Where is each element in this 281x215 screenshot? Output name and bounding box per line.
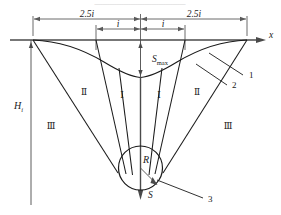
s-axis-label: S [148, 190, 153, 200]
radius-label: R [142, 154, 149, 165]
cropped-caption-text: ————————————— [94, 0, 187, 8]
zone-label-middle-right: Ⅱ [194, 87, 200, 97]
zone-label-inner-right: Ⅰ [157, 90, 161, 100]
s-max-subscript: max [157, 59, 169, 66]
zone-label-outer-right: Ⅲ [224, 121, 233, 131]
callout-label-1: 1 [249, 70, 254, 80]
dimension-label-right-outer: 2.5i [187, 9, 202, 19]
cropped-caption: ————————————— [94, 0, 187, 8]
x-axis-label: x [268, 30, 274, 40]
zone-label-inner-left: Ⅰ [120, 90, 124, 100]
zone-label-outer-left: Ⅲ [47, 121, 56, 131]
callout-label-3: 3 [208, 194, 213, 204]
callout-label-2: 2 [232, 80, 237, 90]
dimension-label-left-outer: 2.5i [80, 9, 95, 19]
depth-subscript: i [21, 106, 23, 113]
subsidence-diagram-figure: ————————————— [0, 0, 281, 215]
zone-label-middle-left: Ⅱ [81, 87, 87, 97]
dimension-label-left-inner: i [117, 19, 120, 29]
dimension-label-right-inner: i [162, 19, 165, 29]
